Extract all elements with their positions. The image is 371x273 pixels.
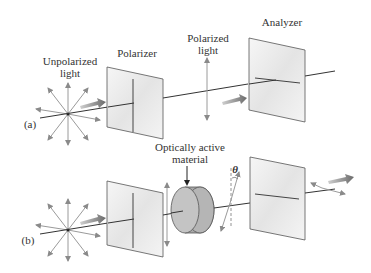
label-theta: θ: [230, 163, 240, 175]
rotated-polarization-arrow: [221, 172, 239, 231]
beam-a-3: [305, 71, 335, 76]
beam-b-1: [40, 223, 108, 234]
label-optically-active-material: Optically active material: [151, 141, 229, 165]
label-unpolarized-line2: light: [40, 67, 100, 79]
propagation-arrow-b2: [328, 174, 354, 184]
label-analyzer: Analyzer: [257, 16, 307, 28]
label-material-line2: material: [151, 153, 229, 165]
propagation-arrow-a1: [80, 98, 106, 109]
label-polarized-light: Polarized light: [185, 32, 231, 56]
panel-tag-b: (b): [18, 234, 38, 246]
propagation-arrow-a2: [222, 94, 247, 105]
label-polarized-line1: Polarized: [185, 32, 231, 44]
propagation-arrow-b1: [80, 214, 106, 225]
panel-tag-a: (a): [20, 118, 40, 130]
label-polarized-line2: light: [185, 44, 231, 56]
polarizer-plate-a: [107, 67, 163, 139]
panel-b: [36, 157, 354, 261]
label-material-line1: Optically active: [151, 141, 229, 153]
transmitted-light-arrow-b: [311, 183, 345, 194]
polarizer-plate-b: [107, 181, 163, 257]
label-polarizer: Polarizer: [112, 47, 162, 59]
label-unpolarized-light: Unpolarized light: [40, 55, 100, 79]
beam-a-2: [163, 84, 248, 98]
beam-a-1: [40, 107, 108, 118]
beam-b-4: [305, 189, 335, 193]
optically-active-material-cylinder: [171, 187, 214, 233]
material-pointer-arrowhead: [184, 180, 190, 186]
label-unpolarized-line1: Unpolarized: [40, 55, 100, 67]
